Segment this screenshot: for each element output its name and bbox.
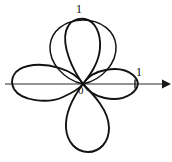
polar-rose-figure	[0, 0, 172, 162]
axis-arrow-icon	[162, 80, 171, 89]
label-origin: 0	[78, 85, 84, 96]
overlapping-circle	[50, 20, 116, 84]
label-top-unit: 1	[76, 3, 82, 15]
label-right-unit: 1	[136, 66, 142, 78]
petal-left	[12, 65, 83, 101]
petal-bottom	[66, 84, 109, 152]
